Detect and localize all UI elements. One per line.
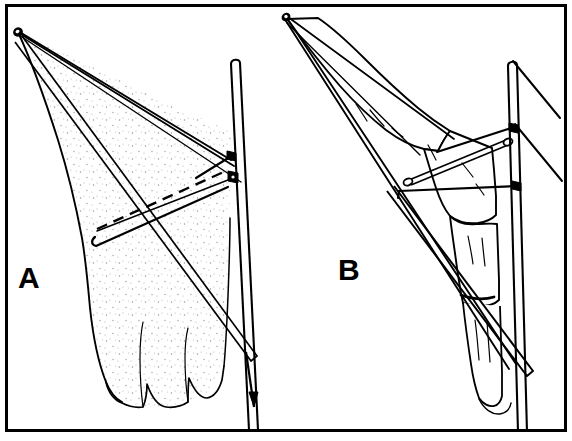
panel-label-a: A — [18, 261, 40, 294]
anatomical-line-drawing: A — [0, 0, 572, 441]
apex-highlight-b — [284, 15, 287, 18]
figure-container: A — [0, 0, 572, 441]
clamp-lower-a-highlight — [231, 175, 234, 178]
panel-label-b: B — [338, 253, 360, 286]
